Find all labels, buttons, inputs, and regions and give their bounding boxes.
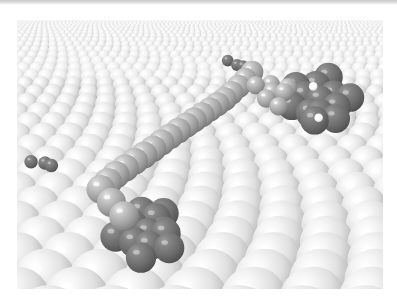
- specular-highlight: [136, 65, 139, 67]
- specular-highlight: [373, 142, 380, 147]
- specular-highlight: [328, 111, 334, 115]
- specular-highlight: [359, 73, 363, 75]
- specular-highlight: [61, 98, 66, 101]
- specular-highlight: [70, 119, 76, 123]
- specular-highlight: [101, 98, 106, 101]
- specular-highlight: [32, 108, 38, 112]
- specular-highlight: [27, 73, 31, 75]
- specular-highlight: [120, 98, 125, 101]
- specular-highlight: [374, 73, 378, 75]
- specular-highlight: [227, 142, 234, 147]
- specular-highlight: [149, 65, 152, 67]
- specular-highlight: [95, 119, 101, 123]
- specular-highlight: [240, 63, 243, 65]
- specular-highlight: [303, 65, 306, 67]
- inner-highlight-atom: [309, 82, 318, 91]
- adsorbate-atom: [269, 97, 287, 115]
- specular-highlight: [345, 73, 349, 75]
- specular-highlight: [345, 182, 354, 188]
- specular-highlight: [262, 154, 270, 159]
- specular-highlight: [56, 73, 60, 75]
- specular-highlight: [309, 78, 315, 82]
- specular-highlight: [273, 73, 277, 75]
- specular-highlight: [229, 73, 233, 75]
- specular-highlight: [265, 65, 268, 67]
- adsorbate-atom: [300, 106, 329, 135]
- adsorbate-atom: [24, 155, 37, 168]
- specular-highlight: [149, 81, 153, 84]
- specular-highlight: [164, 108, 170, 112]
- specular-highlight: [45, 65, 48, 67]
- specular-highlight: [173, 89, 177, 92]
- specular-highlight: [148, 210, 155, 215]
- specular-highlight: [240, 119, 246, 123]
- specular-highlight: [104, 195, 110, 199]
- specular-highlight: [48, 162, 51, 164]
- specular-highlight: [180, 98, 185, 101]
- specular-highlight: [355, 130, 362, 135]
- specular-highlight: [83, 89, 87, 92]
- specular-highlight: [65, 89, 69, 92]
- specular-highlight: [213, 65, 216, 67]
- specular-highlight: [54, 108, 60, 112]
- specular-highlight: [97, 65, 100, 67]
- inner-highlight-atom: [314, 113, 323, 122]
- specular-highlight: [291, 65, 294, 67]
- specular-highlight: [256, 142, 263, 147]
- adsorbate-atom: [126, 243, 156, 273]
- specular-highlight: [186, 73, 190, 75]
- specular-highlight: [99, 73, 103, 75]
- specular-highlight: [275, 130, 282, 135]
- specular-highlight: [200, 65, 203, 67]
- specular-highlight: [294, 154, 302, 159]
- specular-highlight: [278, 65, 281, 67]
- specular-highlight: [361, 119, 367, 123]
- specular-highlight: [343, 142, 350, 147]
- specular-highlight: [52, 142, 59, 147]
- specular-highlight: [314, 142, 321, 147]
- specular-highlight: [42, 73, 46, 75]
- specular-highlight: [200, 73, 204, 75]
- specular-highlight: [119, 119, 125, 123]
- specular-highlight: [114, 73, 118, 75]
- specular-highlight: [251, 81, 255, 84]
- specular-highlight: [98, 108, 104, 112]
- specular-highlight: [53, 81, 57, 84]
- specular-highlight: [20, 81, 24, 84]
- specular-highlight: [85, 73, 89, 75]
- specular-highlight: [371, 168, 380, 174]
- specular-highlight: [58, 65, 61, 67]
- specular-highlight: [157, 73, 161, 75]
- specular-highlight: [128, 73, 132, 75]
- adsorbate-atom: [154, 233, 184, 263]
- specular-highlight: [249, 130, 256, 135]
- specular-highlight: [214, 81, 218, 84]
- specular-highlight: [191, 89, 195, 92]
- specular-highlight: [76, 108, 82, 112]
- specular-highlight: [22, 119, 28, 123]
- specular-highlight: [81, 98, 86, 101]
- specular-highlight: [329, 99, 335, 103]
- specular-highlight: [33, 65, 36, 67]
- specular-highlight: [133, 81, 137, 84]
- specular-highlight: [307, 113, 313, 117]
- specular-highlight: [297, 88, 303, 92]
- specular-highlight: [69, 81, 73, 84]
- specular-highlight: [285, 142, 292, 147]
- specular-highlight: [313, 93, 319, 97]
- specular-highlight: [36, 130, 43, 135]
- specular-highlight: [279, 87, 283, 90]
- specular-highlight: [187, 65, 190, 67]
- specular-highlight: [368, 65, 371, 67]
- specular-highlight: [215, 73, 219, 75]
- specular-highlight: [71, 65, 74, 67]
- specular-highlight: [162, 65, 165, 67]
- specular-highlight: [336, 168, 345, 174]
- specular-highlight: [274, 101, 278, 104]
- specular-highlight: [120, 108, 126, 112]
- specular-highlight: [116, 208, 123, 212]
- specular-highlight: [110, 65, 113, 67]
- specular-highlight: [21, 98, 26, 101]
- specular-highlight: [261, 94, 265, 97]
- specular-highlight: [172, 73, 176, 75]
